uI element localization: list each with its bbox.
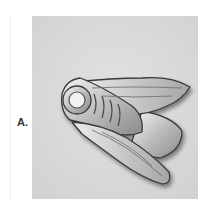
figure-label: A. — [17, 116, 28, 128]
photo-panel — [32, 16, 198, 199]
figure-plate: A. — [10, 16, 198, 199]
label-strip — [10, 16, 33, 199]
fly-amulet-image — [32, 16, 198, 199]
